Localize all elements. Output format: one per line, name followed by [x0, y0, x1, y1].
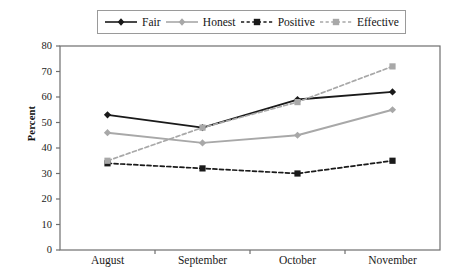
series-marker: [389, 63, 395, 69]
series-line: [108, 161, 393, 174]
series-positive: [104, 158, 395, 177]
series-fair: [104, 88, 396, 131]
series-line: [108, 92, 393, 128]
series-marker: [199, 125, 205, 131]
series-marker: [389, 88, 396, 95]
series-marker: [104, 111, 111, 118]
series-marker: [389, 106, 396, 113]
chart-figure: Fair Honest Positive Effective Percent: [0, 0, 453, 275]
plot-area: [0, 0, 453, 275]
series-marker: [199, 139, 206, 146]
series-marker: [199, 165, 205, 171]
series-marker: [389, 158, 395, 164]
series-marker: [104, 158, 110, 164]
series-marker: [294, 132, 301, 139]
series-marker: [294, 170, 300, 176]
plot-frame: [60, 46, 440, 250]
series-marker: [104, 129, 111, 136]
series-marker: [294, 99, 300, 105]
series-honest: [104, 106, 396, 146]
